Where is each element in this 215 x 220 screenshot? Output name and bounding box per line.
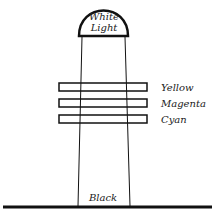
filter-yellow bbox=[59, 83, 147, 91]
subtractive-color-diagram: White Light Yellow Magenta Cyan Black bbox=[0, 0, 215, 220]
filter-label-magenta: Magenta bbox=[160, 98, 206, 109]
result-label: Black bbox=[88, 192, 117, 203]
filter-label-yellow: Yellow bbox=[161, 82, 194, 93]
filter-cyan bbox=[59, 115, 147, 123]
beam-right-edge bbox=[125, 37, 130, 206]
filter-label-cyan: Cyan bbox=[161, 114, 187, 125]
source-label-line1: White bbox=[89, 11, 119, 22]
beam-left-edge bbox=[78, 37, 82, 206]
filter-magenta bbox=[59, 99, 147, 107]
source-label-line2: Light bbox=[90, 22, 119, 33]
